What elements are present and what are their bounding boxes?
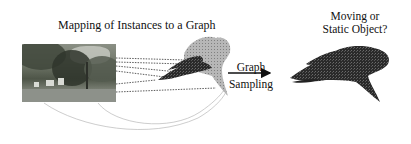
instance-graph	[158, 37, 230, 96]
arrow-label-line-1: Graph	[226, 61, 276, 74]
graph-sampling-label: Graph Sampling	[226, 61, 276, 91]
mapping-curves	[44, 90, 226, 130]
diagram-canvas	[0, 0, 411, 144]
arrow-label-line-2: Sampling	[226, 78, 276, 91]
sampled-graph	[290, 46, 389, 102]
